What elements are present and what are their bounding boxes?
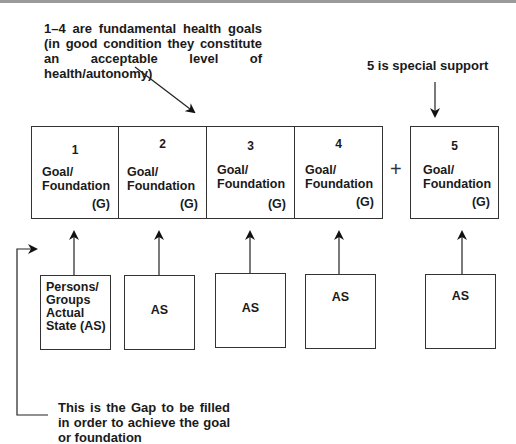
- actual-state-label: AS: [125, 303, 194, 317]
- goal-number: 2: [119, 137, 206, 151]
- plus-sign: +: [390, 158, 402, 181]
- goal-tag: (G): [356, 195, 374, 209]
- actual-state-box-4: AS: [305, 274, 376, 349]
- goal-tag: (G): [92, 197, 110, 211]
- connector-arrows: [0, 0, 516, 444]
- goal-label: Goal/ Foundation: [423, 163, 491, 191]
- actual-state-label: AS: [426, 289, 495, 303]
- goal-number: 3: [207, 139, 294, 153]
- goal-tag: (G): [472, 195, 490, 209]
- actual-state-box-2: AS: [124, 275, 195, 350]
- actual-state-box-3: AS: [215, 273, 286, 348]
- goal-box-5: 5 Goal/ Foundation (G): [410, 126, 499, 219]
- goal-box-4: 4 Goal/ Foundation (G): [294, 126, 383, 219]
- goal-label: Goal/ Foundation: [42, 165, 110, 193]
- goal-number: 1: [32, 143, 118, 157]
- actual-state-label: AS: [306, 290, 375, 304]
- actual-state-label: Persons/ Groups Actual State (AS): [46, 281, 110, 333]
- goal-label: Goal/ Foundation: [127, 165, 195, 193]
- actual-state-label: AS: [216, 301, 285, 315]
- goal-box-1: 1 Goal/ Foundation (G): [31, 126, 119, 219]
- goal-number: 5: [411, 139, 498, 153]
- goal-label: Goal/ Foundation: [217, 163, 285, 191]
- actual-state-box-1: Persons/ Groups Actual State (AS): [40, 275, 111, 350]
- goal-label: Goal/ Foundation: [305, 163, 373, 191]
- goal-box-3: 3 Goal/ Foundation (G): [206, 126, 295, 219]
- goal-number: 4: [295, 137, 382, 151]
- goal-tag: (G): [180, 197, 198, 211]
- goal-tag: (G): [268, 197, 286, 211]
- goal-box-2: 2 Goal/ Foundation (G): [118, 126, 207, 219]
- actual-state-box-5: AS: [425, 274, 496, 349]
